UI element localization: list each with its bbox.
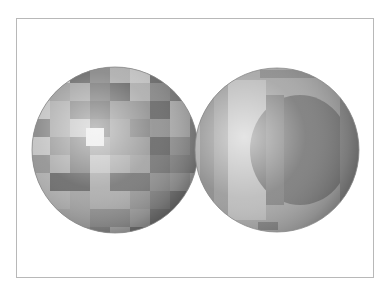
checker-sphere [30, 65, 210, 245]
sphere-render [0, 0, 392, 290]
